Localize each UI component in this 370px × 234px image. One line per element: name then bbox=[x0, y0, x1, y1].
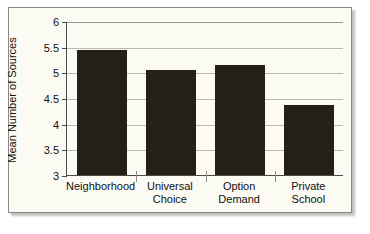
x-axis-label-line: Option bbox=[205, 180, 274, 193]
x-axis-label: Private School bbox=[274, 180, 343, 206]
y-axis-tick bbox=[62, 176, 67, 177]
y-axis-tick-label: 5 bbox=[53, 67, 59, 79]
y-axis-tick-label: 5.5 bbox=[44, 42, 59, 54]
y-axis-tick bbox=[62, 22, 67, 23]
x-axis-label-line: Private School bbox=[274, 180, 343, 206]
chart-figure: Mean Number of Sources 33.544.555.56 Nei… bbox=[8, 7, 352, 213]
y-axis-tick bbox=[62, 99, 67, 100]
x-axis-label: OptionDemand bbox=[205, 180, 274, 206]
gridline bbox=[67, 22, 343, 23]
x-axis-label-line: Demand bbox=[205, 193, 274, 206]
bar[interactable] bbox=[146, 70, 196, 175]
x-axis-label-line: Universal bbox=[135, 180, 204, 193]
y-axis-tick-label: 4.5 bbox=[44, 93, 59, 105]
bar[interactable] bbox=[284, 105, 334, 175]
plot-area: 33.544.555.56 bbox=[66, 22, 343, 176]
y-axis-tick bbox=[62, 125, 67, 126]
x-axis-label: Neighborhood bbox=[66, 180, 135, 193]
x-axis-label: UniversalChoice bbox=[135, 180, 204, 206]
bar[interactable] bbox=[77, 50, 127, 175]
y-axis-tick-label: 4 bbox=[53, 119, 59, 131]
y-axis-title: Mean Number of Sources bbox=[6, 37, 18, 162]
y-axis-tick-label: 6 bbox=[53, 16, 59, 28]
y-axis-tick bbox=[62, 150, 67, 151]
bar[interactable] bbox=[215, 65, 265, 175]
gridline bbox=[67, 48, 343, 49]
y-axis-tick bbox=[62, 73, 67, 74]
y-axis-tick-label: 3.5 bbox=[44, 144, 59, 156]
x-axis-label-line: Neighborhood bbox=[66, 180, 135, 193]
y-axis-tick bbox=[62, 48, 67, 49]
x-axis-label-line: Choice bbox=[135, 193, 204, 206]
y-axis-tick-label: 3 bbox=[53, 170, 59, 182]
